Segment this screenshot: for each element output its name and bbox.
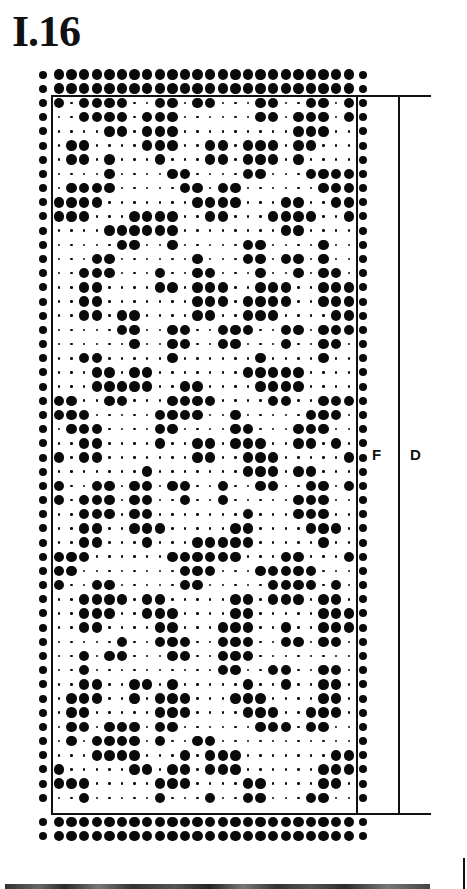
edge-dot: [39, 298, 47, 306]
edge-dot: [359, 765, 367, 773]
border-dot: [268, 83, 279, 94]
border-dot: [359, 832, 367, 840]
border-dot: [79, 83, 90, 94]
edge-dot: [39, 624, 47, 632]
border-dot: [318, 83, 329, 94]
border-dot: [117, 69, 128, 80]
label-f: F: [372, 446, 381, 463]
edge-dot: [359, 269, 367, 277]
border-dot: [218, 83, 229, 94]
edge-dot: [39, 312, 47, 320]
edge-dot: [359, 581, 367, 589]
edge-dot: [39, 354, 47, 362]
border-dot: [306, 831, 317, 842]
edge-dot: [359, 354, 367, 362]
edge-dot: [359, 298, 367, 306]
edge-dot: [39, 113, 47, 121]
border-dot: [180, 69, 191, 80]
edge-dot: [39, 439, 47, 447]
border-dot: [359, 818, 367, 826]
edge-dot: [39, 425, 47, 433]
border-dot: [92, 831, 103, 842]
border-dot: [39, 85, 47, 93]
edge-dot: [359, 524, 367, 532]
edge-dot: [359, 283, 367, 291]
edge-dot: [359, 482, 367, 490]
edge-dot: [39, 127, 47, 135]
border-dot: [92, 83, 103, 94]
edge-dot: [39, 524, 47, 532]
border-dot: [54, 831, 65, 842]
border-dot: [331, 69, 342, 80]
edge-dot: [359, 780, 367, 788]
border-dot: [54, 69, 65, 80]
border-dot: [318, 817, 329, 828]
edge-dot: [39, 269, 47, 277]
edge-dot: [359, 595, 367, 603]
edge-dot: [359, 751, 367, 759]
edge-dot: [39, 482, 47, 490]
edge-dot: [39, 794, 47, 802]
edge-dot: [39, 567, 47, 575]
border-dot: [230, 83, 241, 94]
edge-dot: [359, 553, 367, 561]
edge-dot: [39, 638, 47, 646]
edge-dot: [39, 142, 47, 150]
edge-dot: [359, 652, 367, 660]
border-dot: [218, 69, 229, 80]
border-dot: [180, 831, 191, 842]
edge-dot: [39, 156, 47, 164]
border-dot: [293, 831, 304, 842]
border-dot: [344, 69, 355, 80]
border-dot: [104, 83, 115, 94]
edge-dot: [359, 567, 367, 575]
edge-dot: [39, 666, 47, 674]
border-dot: [255, 69, 266, 80]
edge-dot: [359, 397, 367, 405]
border-dot: [218, 831, 229, 842]
edge-dot: [359, 624, 367, 632]
border-dot: [167, 83, 178, 94]
border-dot: [205, 83, 216, 94]
border-dot: [104, 817, 115, 828]
border-dot: [66, 69, 77, 80]
edge-dot: [39, 751, 47, 759]
d-dimension-line: [398, 95, 400, 815]
border-dot: [268, 817, 279, 828]
border-dot: [192, 831, 203, 842]
border-dot: [192, 83, 203, 94]
border-dot: [129, 83, 140, 94]
border-dot: [192, 817, 203, 828]
border-dot: [306, 83, 317, 94]
border-dot: [205, 817, 216, 828]
edge-dot: [39, 454, 47, 462]
border-dot: [167, 831, 178, 842]
edge-dot: [359, 184, 367, 192]
edge-dot: [39, 765, 47, 773]
border-dot: [39, 832, 47, 840]
border-dot: [79, 817, 90, 828]
border-dot: [243, 83, 254, 94]
border-dot: [129, 69, 140, 80]
border-dot: [281, 69, 292, 80]
edge-dot: [359, 198, 367, 206]
border-dot: [117, 83, 128, 94]
edge-dot: [359, 113, 367, 121]
border-dot: [243, 69, 254, 80]
border-dot: [205, 831, 216, 842]
edge-dot: [39, 581, 47, 589]
edge-dot: [359, 496, 367, 504]
border-dot: [117, 817, 128, 828]
edge-dot: [359, 468, 367, 476]
border-dot: [331, 83, 342, 94]
edge-dot: [359, 127, 367, 135]
edge-dot: [39, 652, 47, 660]
border-dot: [205, 69, 216, 80]
edge-dot: [359, 723, 367, 731]
edge-dot: [39, 368, 47, 376]
border-dot: [218, 817, 229, 828]
border-dot: [281, 83, 292, 94]
border-dot: [92, 817, 103, 828]
edge-dot: [39, 198, 47, 206]
border-dot: [129, 817, 140, 828]
